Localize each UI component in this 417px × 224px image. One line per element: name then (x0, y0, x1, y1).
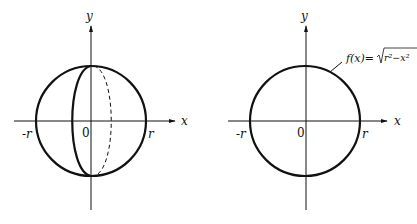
function-pointer (330, 62, 342, 72)
x-axis-label: x (394, 114, 401, 128)
origin-label: 0 (297, 126, 305, 140)
function-label: f(x)= r²−x² (345, 48, 417, 65)
x-axis-label: x (181, 114, 188, 128)
y-axis-label: y (300, 9, 308, 23)
circle-figure: y x -r r 0 f(x)= r²−x² (228, 9, 417, 210)
sphere-figure: y x -r r 0 (14, 9, 188, 210)
pos-r-label: r (148, 127, 155, 141)
diagram-canvas: y x -r r 0 y x -r r 0 f(x)= r²−x² (0, 0, 417, 224)
function-prefix: f(x)= (345, 52, 374, 65)
function-radicand: r²−x² (384, 52, 410, 63)
neg-r-label: -r (22, 127, 33, 141)
neg-r-label: -r (236, 127, 247, 141)
origin-label: 0 (82, 126, 90, 140)
pos-r-label: r (362, 127, 369, 141)
y-axis-label: y (85, 9, 93, 23)
